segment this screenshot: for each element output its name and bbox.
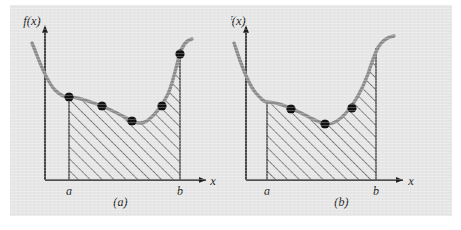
diagram-panel-b: f(x) x a b (b) [231, 5, 452, 216]
y-axis-label-a: f(x) [23, 14, 40, 28]
x-axis-label-b: x [407, 174, 414, 188]
diagram-panel-a: f(x) x a b (a) [10, 5, 231, 216]
curve-point [286, 104, 295, 113]
diagram-b-svg: f(x) x a b [231, 5, 452, 216]
hatched-region-b [263, 35, 383, 185]
curve-point [97, 101, 106, 110]
y-axis-label-b: f(x) [231, 14, 246, 28]
curve-point [347, 103, 356, 112]
caption-a: (a) [10, 195, 231, 210]
curve-point [127, 116, 136, 125]
figure-panel: f(x) x a b (a) [10, 5, 452, 216]
curve-point [157, 101, 166, 110]
curve-point [320, 119, 329, 128]
caption-b: (b) [231, 195, 452, 210]
curve-point [64, 92, 73, 101]
hatched-region-a [65, 35, 190, 185]
curve-point [175, 49, 184, 58]
x-axis-label-a: x [209, 174, 216, 188]
diagram-a-svg: f(x) x a b [10, 5, 231, 216]
